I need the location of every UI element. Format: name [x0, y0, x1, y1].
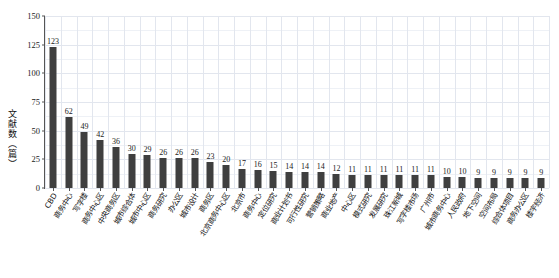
- y-axis-label: 文献数（篇）: [6, 109, 19, 169]
- bar[interactable]: [191, 158, 198, 188]
- bar[interactable]: [301, 172, 308, 188]
- bar[interactable]: [396, 175, 403, 188]
- gridline-vertical: [549, 16, 550, 188]
- y-axis-tick-label: 50: [32, 126, 46, 136]
- bar-value-label: 42: [96, 130, 104, 139]
- bar-value-label: 14: [301, 162, 309, 171]
- bar-slot: 9: [502, 16, 518, 188]
- bar-slot: 11: [407, 16, 423, 188]
- bar[interactable]: [286, 172, 293, 188]
- x-axis-labels: CBD商务中心写字楼商务中心区中央商务区城市综合体城市中心区商务研究办公区城市设…: [44, 190, 549, 278]
- bar[interactable]: [475, 178, 482, 188]
- bar[interactable]: [459, 177, 466, 188]
- bar-slot: 10: [439, 16, 455, 188]
- bar-slot: 16: [250, 16, 266, 188]
- bar[interactable]: [317, 172, 324, 188]
- bar-value-label: 10: [458, 167, 466, 176]
- bar-value-label: 17: [238, 159, 246, 168]
- bar-value-label: 14: [317, 162, 325, 171]
- bar-slot: 20: [218, 16, 234, 188]
- bar[interactable]: [175, 158, 182, 188]
- bar[interactable]: [238, 169, 245, 188]
- bar[interactable]: [427, 175, 434, 188]
- bar-slot: 29: [140, 16, 156, 188]
- bar[interactable]: [364, 175, 371, 188]
- bar-slot: 11: [360, 16, 376, 188]
- bar[interactable]: [506, 178, 513, 188]
- bar-value-label: 11: [380, 165, 388, 174]
- bar-slot: 11: [392, 16, 408, 188]
- bar[interactable]: [538, 178, 545, 188]
- y-axis-tick-label: 125: [27, 40, 45, 50]
- bar-slot: 9: [533, 16, 549, 188]
- bar[interactable]: [412, 175, 419, 188]
- bar[interactable]: [65, 117, 72, 188]
- bar-slot: 14: [297, 16, 313, 188]
- bar-slot: 49: [77, 16, 93, 188]
- y-axis-tick-label: 100: [27, 68, 45, 78]
- bar-slot: 23: [203, 16, 219, 188]
- bar-slot: 36: [108, 16, 124, 188]
- bar-value-label: 26: [191, 148, 199, 157]
- bar-value-label: 20: [222, 155, 230, 164]
- y-axis-tick-label: 25: [32, 154, 46, 164]
- bar[interactable]: [207, 162, 214, 188]
- bar[interactable]: [128, 154, 135, 188]
- y-axis-tick-label: 75: [32, 97, 46, 107]
- bar-slot: 17: [234, 16, 250, 188]
- bar[interactable]: [97, 140, 104, 188]
- bar[interactable]: [270, 171, 277, 188]
- bar[interactable]: [522, 178, 529, 188]
- bar[interactable]: [144, 155, 151, 188]
- bar[interactable]: [333, 174, 340, 188]
- bar-slot: 12: [329, 16, 345, 188]
- bar-slot: 62: [61, 16, 77, 188]
- bar-slot: 9: [486, 16, 502, 188]
- bar-value-label: 9: [523, 168, 527, 177]
- bar-slot: 30: [124, 16, 140, 188]
- gridline-horizontal: [45, 188, 549, 189]
- bar-value-label: 11: [348, 165, 356, 174]
- bar-value-label: 9: [492, 168, 496, 177]
- bar-slot: 11: [423, 16, 439, 188]
- bar-slot: 9: [518, 16, 534, 188]
- bar-value-label: 9: [476, 168, 480, 177]
- bar-slot: 26: [171, 16, 187, 188]
- bar[interactable]: [49, 47, 56, 188]
- bar-value-label: 11: [364, 165, 372, 174]
- bar[interactable]: [81, 132, 88, 188]
- bar[interactable]: [254, 170, 261, 188]
- bar-slot: 14: [313, 16, 329, 188]
- bar[interactable]: [443, 177, 450, 188]
- bar-value-label: 123: [47, 37, 59, 46]
- bar-slot: 26: [155, 16, 171, 188]
- bar-value-label: 26: [175, 148, 183, 157]
- bar-slot: 42: [92, 16, 108, 188]
- bar-value-label: 11: [396, 165, 404, 174]
- bar-slot: 10: [455, 16, 471, 188]
- bar[interactable]: [490, 178, 497, 188]
- bar-value-label: 11: [427, 165, 435, 174]
- bar-value-label: 10: [443, 167, 451, 176]
- bar-value-label: 9: [539, 168, 543, 177]
- bar[interactable]: [160, 158, 167, 188]
- bar-value-label: 16: [254, 160, 262, 169]
- bar-slot: 14: [281, 16, 297, 188]
- bar[interactable]: [223, 165, 230, 188]
- bars-layer: 1236249423630292626262320171615141414121…: [45, 16, 549, 188]
- bar-value-label: 9: [508, 168, 512, 177]
- bar-value-label: 15: [269, 161, 277, 170]
- bar-slot: 15: [266, 16, 282, 188]
- bar-value-label: 62: [65, 107, 73, 116]
- bar[interactable]: [112, 147, 119, 188]
- bar-value-label: 23: [206, 152, 214, 161]
- bar-value-label: 26: [159, 148, 167, 157]
- bar-slot: 26: [187, 16, 203, 188]
- bar[interactable]: [349, 175, 356, 188]
- chart-figure: 文献数（篇） 123624942363029262626232017161514…: [0, 0, 559, 278]
- bar[interactable]: [380, 175, 387, 188]
- bar-slot: 11: [376, 16, 392, 188]
- bar-value-label: 29: [143, 145, 151, 154]
- plot-area: 1236249423630292626262320171615141414121…: [44, 16, 549, 189]
- bar-value-label: 30: [128, 144, 136, 153]
